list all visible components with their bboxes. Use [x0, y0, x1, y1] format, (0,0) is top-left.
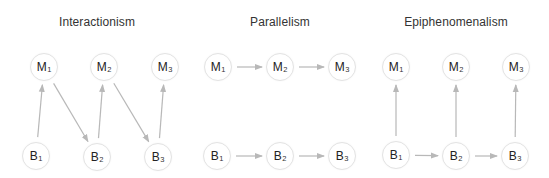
- node-epiphenomenalism-b2: B2: [442, 142, 470, 170]
- node-subscript: 3: [160, 156, 164, 164]
- node-subscript: 1: [38, 155, 42, 163]
- node-subscript: 2: [282, 155, 286, 163]
- node-letter: B: [336, 150, 344, 162]
- node-subscript: 3: [344, 155, 348, 163]
- node-subscript: 2: [99, 156, 103, 164]
- node-parallelism-b2: B2: [266, 142, 294, 170]
- node-subscript: 1: [399, 66, 403, 74]
- node-subscript: 2: [107, 66, 111, 74]
- node-epiphenomenalism-m3: M3: [502, 53, 530, 81]
- node-letter: B: [152, 151, 160, 163]
- arrow-interactionism-b3-to-m3: [160, 85, 164, 138]
- node-letter: B: [274, 150, 282, 162]
- node-letter: M: [389, 61, 399, 73]
- node-interactionism-m1: M1: [30, 53, 58, 81]
- node-subscript: 2: [283, 66, 287, 74]
- node-letter: B: [91, 151, 99, 163]
- node-interactionism-b1: B1: [22, 142, 50, 170]
- node-interactionism-b2: B2: [83, 143, 111, 171]
- panel-title-epiphenomenalism: Epiphenomenalism: [404, 15, 508, 29]
- node-subscript: 2: [459, 66, 463, 74]
- philosophy-of-mind-diagram: Interactionism Parallelism Epiphenomenal…: [0, 0, 549, 178]
- node-letter: B: [450, 150, 458, 162]
- node-interactionism-m2: M2: [90, 53, 118, 81]
- node-letter: M: [273, 61, 283, 73]
- arrow-epiphenomenalism-b3-to-m3: [515, 85, 516, 137]
- node-letter: M: [37, 61, 47, 73]
- node-subscript: 3: [345, 66, 349, 74]
- node-subscript: 1: [398, 154, 402, 162]
- panel-title-parallelism: Parallelism: [250, 15, 310, 29]
- node-epiphenomenalism-b1: B1: [382, 141, 410, 169]
- node-subscript: 1: [47, 66, 51, 74]
- node-epiphenomenalism-b3: B3: [501, 142, 529, 170]
- node-interactionism-b3: B3: [144, 143, 172, 171]
- node-subscript: 1: [219, 155, 223, 163]
- node-parallelism-b1: B1: [203, 142, 231, 170]
- node-subscript: 3: [517, 155, 521, 163]
- panel-title-interactionism: Interactionism: [59, 15, 135, 29]
- node-subscript: 1: [221, 66, 225, 74]
- node-parallelism-b3: B3: [328, 142, 356, 170]
- node-letter: B: [211, 150, 219, 162]
- arrow-interactionism-b1-to-m1: [38, 85, 43, 137]
- node-letter: B: [390, 149, 398, 161]
- node-letter: M: [509, 61, 519, 73]
- node-parallelism-m2: M2: [266, 53, 294, 81]
- node-subscript: 2: [458, 155, 462, 163]
- node-epiphenomenalism-m2: M2: [442, 53, 470, 81]
- node-subscript: 3: [168, 66, 172, 74]
- node-letter: M: [449, 61, 459, 73]
- node-parallelism-m1: M1: [204, 53, 232, 81]
- node-interactionism-m3: M3: [151, 53, 179, 81]
- node-letter: B: [509, 150, 517, 162]
- node-letter: M: [211, 61, 221, 73]
- node-subscript: 3: [519, 66, 523, 74]
- node-letter: B: [30, 150, 38, 162]
- node-letter: M: [158, 61, 168, 73]
- node-epiphenomenalism-m1: M1: [382, 53, 410, 81]
- arrow-interactionism-m2-to-b3: [114, 83, 149, 141]
- arrow-interactionism-b2-to-m2: [99, 85, 103, 138]
- arrow-interactionism-m1-to-b2: [54, 83, 88, 141]
- node-letter: M: [97, 61, 107, 73]
- node-parallelism-m3: M3: [328, 53, 356, 81]
- node-letter: M: [335, 61, 345, 73]
